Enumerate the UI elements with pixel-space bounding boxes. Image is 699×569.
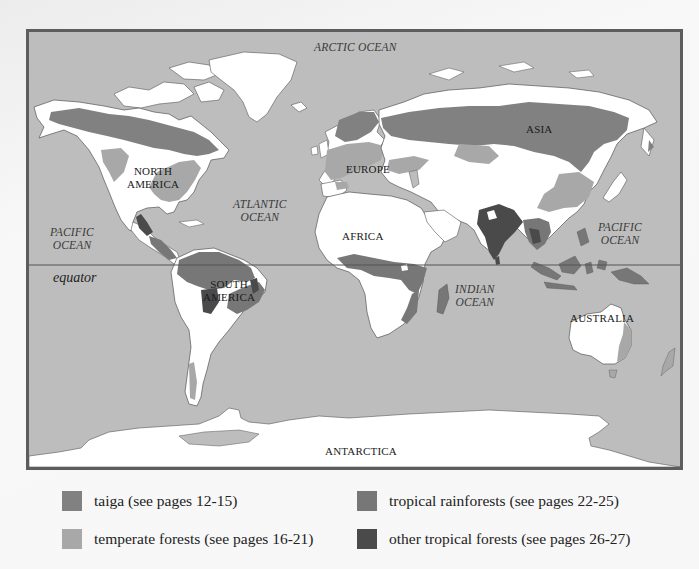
label-arctic-ocean: ARCTIC OCEAN bbox=[314, 41, 397, 54]
label-north-america: NORTH AMERICA bbox=[127, 165, 179, 191]
legend-label-taiga: taiga (see pages 12-15) bbox=[94, 492, 237, 510]
world-map: ARCTIC OCEAN ATLANTIC OCEAN PACIFIC OCEA… bbox=[26, 29, 683, 470]
legend-item-other-tropical: other tropical forests (see pages 26-27) bbox=[357, 528, 630, 550]
tropical-rainforest-swatch-icon bbox=[357, 491, 377, 511]
label-europe: EUROPE bbox=[346, 163, 390, 176]
label-indian-ocean: INDIAN OCEAN bbox=[455, 283, 495, 309]
map-graphic bbox=[29, 32, 680, 467]
label-antarctica: ANTARCTICA bbox=[325, 445, 397, 458]
label-asia: ASIA bbox=[526, 123, 552, 136]
legend-label-other-tropical: other tropical forests (see pages 26-27) bbox=[389, 530, 630, 548]
label-australia: AUSTRALIA bbox=[570, 312, 634, 325]
legend-item-taiga: taiga (see pages 12-15) bbox=[62, 490, 237, 512]
label-atlantic-ocean: ATLANTIC OCEAN bbox=[233, 198, 287, 224]
legend-label-temperate: temperate forests (see pages 16-21) bbox=[94, 530, 314, 548]
label-pacific-ocean-west: PACIFIC OCEAN bbox=[50, 226, 94, 252]
other-tropical-swatch-icon bbox=[357, 529, 377, 549]
equator-label: equator bbox=[53, 270, 97, 286]
taiga-swatch-icon bbox=[62, 491, 82, 511]
label-south-america: SOUTH AMERICA bbox=[203, 278, 255, 304]
legend-label-tropical-rainforest: tropical rainforests (see pages 22-25) bbox=[389, 492, 619, 510]
label-pacific-ocean-east: PACIFIC OCEAN bbox=[598, 221, 642, 247]
label-africa: AFRICA bbox=[342, 230, 384, 243]
temperate-swatch-icon bbox=[62, 529, 82, 549]
legend-item-temperate: temperate forests (see pages 16-21) bbox=[62, 528, 314, 550]
map-legend: taiga (see pages 12-15) temperate forest… bbox=[62, 488, 662, 554]
legend-item-tropical-rainforest: tropical rainforests (see pages 22-25) bbox=[357, 490, 619, 512]
